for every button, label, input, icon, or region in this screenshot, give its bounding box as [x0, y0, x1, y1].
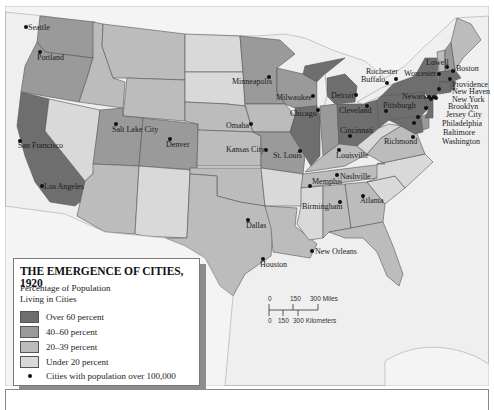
city-label-rochester: Rochester: [366, 68, 398, 76]
city-dot-newark: [427, 95, 431, 99]
city-label-pittsburgh: Pittsburgh: [383, 102, 416, 110]
city-label-denver: Denver: [166, 141, 190, 149]
map-legend: THE EMERGENCE OF CITIES, 1920 Percentage…: [13, 258, 200, 386]
city-label-memphis: Memphis: [312, 178, 342, 186]
city-label-detroit: Detroit: [331, 92, 354, 100]
city-dot-detroit: [354, 93, 358, 97]
city-label-los-angeles: Los Angeles: [44, 183, 84, 191]
city-dot-boston: [451, 69, 455, 73]
city-dot-buffalo: [385, 81, 389, 85]
caption-box: [5, 389, 489, 410]
legend-label-city-dot: Cities with population over 100,000: [46, 371, 176, 381]
city-dot-new-orleans: [310, 249, 314, 253]
legend-item-over-60: Over 60 percent: [20, 310, 104, 323]
state-iowa: [245, 104, 295, 132]
scale-miles-0: 0: [268, 295, 272, 302]
city-dot-brooklyn: [434, 96, 438, 100]
city-label-buffalo: Buffalo: [361, 76, 385, 84]
state-montana: [102, 24, 185, 80]
city-label-baltimore: Baltimore: [443, 129, 475, 137]
city-label-milwaukee: Milwaukee: [276, 94, 312, 102]
city-label-jersey-city: Jersey City: [446, 111, 482, 119]
scale-miles-150: 150: [290, 295, 301, 302]
swatch-under-20-icon: [20, 356, 39, 368]
scale-km-300: 300 Kilometers: [293, 317, 336, 324]
city-label-worcester: Worcester: [404, 70, 436, 78]
city-label-atlanta: Atlanta: [360, 197, 384, 205]
legend-subtitle-line2: Living in Cities: [20, 294, 77, 304]
state-wyoming: [123, 78, 185, 121]
city-label-salt-lake-city: Salt Lake City: [112, 126, 158, 134]
state-new-mexico: [135, 166, 190, 238]
legend-item-city-dot: Cities with population over 100,000: [20, 369, 176, 382]
legend-label-40-60: 40–60 percent: [46, 327, 97, 337]
city-label-louisville: Louisville: [336, 152, 368, 160]
city-dot-rochester: [394, 77, 398, 81]
scale-km-0: 0: [268, 317, 272, 324]
legend-label-20-39: 20–39 percent: [46, 342, 97, 352]
city-dot-icon: [28, 374, 32, 378]
city-label-washington: Washington: [442, 138, 480, 146]
city-label-portland: Portland: [37, 54, 64, 62]
city-label-minneapolis: Minneapolis: [232, 78, 272, 86]
city-dot-washington: [412, 121, 416, 125]
legend-item-under-20: Under 20 percent: [20, 355, 108, 368]
city-label-san-francisco: San Francisco: [18, 142, 63, 150]
scale-km-150: 150: [278, 317, 289, 324]
city-label-omaha: Omaha: [226, 122, 249, 130]
city-label-richmond: Richmond: [384, 138, 417, 146]
legend-subtitle-line1: Percentage of Population: [20, 283, 110, 293]
swatch-40-60-icon: [20, 326, 39, 338]
city-label-chicago: Chicago: [290, 110, 317, 118]
swatch-over-60-icon: [20, 311, 39, 323]
city-label-boston: Boston: [456, 65, 479, 73]
city-dot-new-haven: [437, 87, 441, 91]
city-label-new-orleans: New Orleans: [315, 248, 357, 256]
city-dot-philadelphia: [424, 106, 428, 110]
city-label-philadelphia: Philadelphia: [442, 120, 482, 128]
scale-bar: 0 150 300 Miles 0 150 300 Kilometers: [268, 295, 368, 331]
swatch-20-39-icon: [20, 341, 39, 353]
city-label-st-louis: St. Louis: [273, 152, 302, 160]
legend-item-40-60: 40–60 percent: [20, 325, 97, 338]
city-label-cleveland: Cleveland: [339, 107, 371, 115]
city-label-birmingham: Birmingham: [302, 203, 342, 211]
city-label-houston: Houston: [260, 261, 287, 269]
state-north-dakota: [185, 34, 243, 72]
city-label-newark: Newark: [402, 93, 427, 101]
city-dot-worcester: [437, 72, 441, 76]
city-label-lowell: Lowell: [426, 59, 449, 67]
scale-ruler-icon: [268, 304, 328, 316]
city-label-dallas: Dallas: [246, 222, 266, 230]
city-label-cincinnati: Cincinnati: [340, 127, 373, 135]
legend-label-under-20: Under 20 percent: [46, 357, 108, 367]
legend-item-20-39: 20–39 percent: [20, 340, 97, 353]
legend-label-over-60: Over 60 percent: [46, 312, 104, 322]
city-dot-omaha: [249, 122, 253, 126]
city-label-kansas-city: Kansas City: [226, 146, 265, 154]
scale-miles-300: 300 Miles: [310, 295, 338, 302]
city-dot-baltimore: [416, 115, 420, 119]
state-arkansas: [261, 168, 303, 206]
city-label-seattle: Seattle: [28, 24, 50, 32]
city-label-nashville: Nashville: [340, 173, 371, 181]
